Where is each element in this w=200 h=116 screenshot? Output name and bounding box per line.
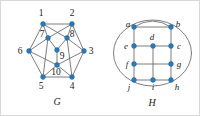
vertex-label-j: j (127, 82, 131, 92)
vertex-label-d: d (150, 32, 155, 42)
graph-g-caption: G (53, 96, 60, 107)
vertex-label-8: 8 (70, 29, 75, 39)
vertex-label-h: h (175, 82, 180, 92)
vertex-label-7: 7 (40, 29, 45, 39)
vertex-label-5: 5 (39, 81, 44, 91)
graph-h-edges (114, 20, 192, 86)
vertex-1 (41, 22, 46, 27)
vertex-d (151, 44, 156, 49)
vertex-h (169, 78, 174, 83)
vertex-label-i: i (152, 82, 155, 92)
edge-outer-ellipse (114, 20, 192, 86)
vertex-g (169, 62, 174, 67)
vertex-2 (70, 22, 75, 27)
edge-6-7 (29, 38, 48, 51)
vertex-label-c: c (177, 41, 181, 51)
vertex-label-3: 3 (89, 46, 94, 56)
vertex-f (132, 62, 137, 67)
vertex-b (169, 25, 174, 30)
graph-g: 1 2 3 4 5 6 7 8 9 10 G (18, 8, 94, 107)
vertex-label-1: 1 (39, 8, 44, 18)
vertex-label-e: e (124, 41, 128, 51)
vertex-6 (27, 49, 32, 54)
vertex-4 (70, 75, 75, 80)
vertex-label-a: a (126, 19, 131, 29)
vertex-label-10: 10 (51, 67, 61, 77)
graph-canvas: 1 2 3 4 5 6 7 8 9 10 G (1, 1, 200, 116)
graph-h: a b c d e f g h i j H (114, 19, 192, 108)
vertex-3 (82, 49, 87, 54)
vertex-label-f: f (126, 59, 130, 69)
vertex-j (132, 78, 137, 83)
vertex-label-9: 9 (60, 51, 65, 61)
vertex-c (169, 44, 174, 49)
vertex-label-b: b (176, 19, 181, 29)
vertex-a (132, 25, 137, 30)
edge-3-4 (72, 51, 84, 77)
vertex-7 (46, 36, 51, 41)
vertex-e (132, 44, 137, 49)
vertex-5 (41, 75, 46, 80)
vertex-label-6: 6 (18, 46, 23, 56)
graph-figure: 1 2 3 4 5 6 7 8 9 10 G (0, 0, 200, 116)
edge-7-5 (43, 38, 48, 77)
vertex-label-2: 2 (70, 8, 75, 18)
vertex-label-g: g (177, 59, 182, 69)
graph-h-caption: H (147, 97, 156, 108)
vertex-label-4: 4 (70, 81, 75, 91)
